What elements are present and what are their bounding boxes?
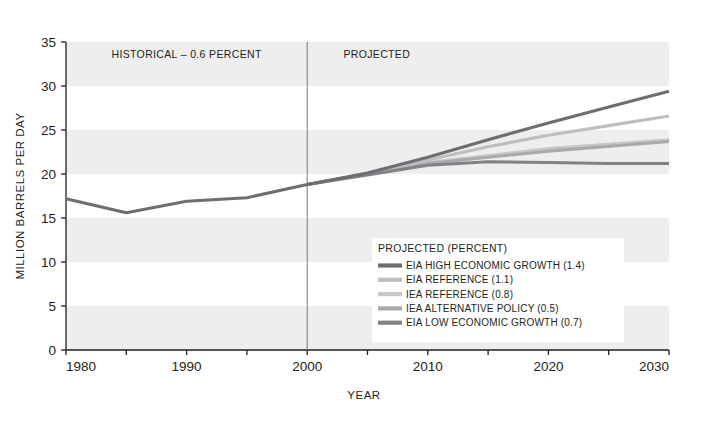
series-line-5 [66,185,307,213]
x-tick-label: 2030 [639,359,669,374]
annotation-0: HISTORICAL – 0.6 PERCENT [111,48,261,60]
line-chart: 05101520253035 198019902000201020202030 … [0,0,708,423]
x-axis-title: YEAR [347,389,380,401]
y-axis-title: MILLION BARRELS PER DAY [14,112,26,279]
annotation-1: PROJECTED [343,48,410,60]
x-tick-label: 1990 [172,359,202,374]
legend-label-4: EIA LOW ECONOMIC GROWTH (0.7) [406,317,582,328]
y-tick-label: 35 [41,35,56,50]
legend-label-3: IEA ALTERNATIVE POLICY (0.5) [406,303,559,314]
period-annotations: HISTORICAL – 0.6 PERCENTPROJECTED [111,48,410,60]
legend-title: PROJECTED (PERCENT) [378,242,507,254]
x-tick-labels: 198019902000201020202030 [66,359,669,374]
y-tick-label: 5 [48,299,56,314]
legend-label-0: EIA HIGH ECONOMIC GROWTH (1.4) [406,260,585,271]
legend-label-1: EIA REFERENCE (1.1) [406,274,513,285]
x-tick-label: 1980 [66,359,96,374]
background-band-2 [66,130,669,174]
y-tick-label: 15 [41,211,56,226]
x-tick-label: 2010 [413,359,443,374]
chart-legend: PROJECTED (PERCENT)EIA HIGH ECONOMIC GRO… [372,238,624,342]
y-tick-labels: 05101520253035 [41,35,56,358]
legend-label-2: IEA REFERENCE (0.8) [406,289,513,300]
y-tick-label: 20 [41,167,56,182]
chart-figure: 05101520253035 198019902000201020202030 … [0,0,708,423]
x-tick-label: 2020 [533,359,563,374]
x-tick-label: 2000 [292,359,322,374]
y-tick-label: 0 [48,343,56,358]
y-tick-label: 10 [41,255,56,270]
y-tick-label: 25 [41,123,56,138]
y-tick-label: 30 [41,79,56,94]
